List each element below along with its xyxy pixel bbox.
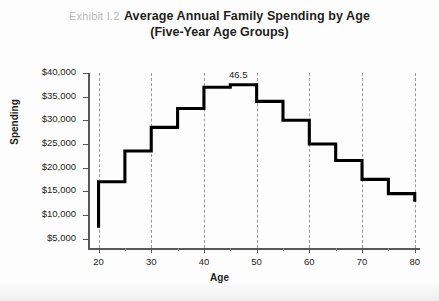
- x-tick-label: 20: [93, 256, 104, 267]
- x-tick: [204, 248, 205, 253]
- exhibit-label: Exhibit I.2: [69, 10, 120, 22]
- y-tick-label: $25,000: [42, 137, 76, 148]
- x-tick: [362, 248, 363, 253]
- y-tick-label: $20,000: [42, 161, 76, 172]
- y-tick-label: $40,000: [42, 66, 76, 77]
- y-tick-label: $5,000: [47, 232, 76, 243]
- x-tick-label: 70: [357, 256, 368, 267]
- y-tick-label: $35,000: [42, 90, 76, 101]
- x-tick: [99, 248, 100, 253]
- x-tick-minor: [178, 248, 179, 251]
- plot-area: $5,000$10,000$15,000$20,000$25,000$30,00…: [88, 73, 420, 248]
- x-tick-label: 60: [304, 256, 315, 267]
- chart-title-block: Exhibit I.2 Average Annual Family Spendi…: [0, 7, 439, 40]
- page-title: Average Annual Family Spending by Age: [124, 9, 370, 23]
- x-tick-label: 80: [409, 256, 420, 267]
- x-tick: [309, 248, 310, 253]
- peak-age-annotation: 46.5: [229, 69, 248, 80]
- x-axis-line: [88, 248, 420, 250]
- spending-step-line: [88, 73, 420, 248]
- spending-step-path: [99, 85, 415, 228]
- x-tick: [151, 248, 152, 253]
- x-axis-title: Age: [0, 272, 439, 283]
- x-tick-minor: [125, 248, 126, 251]
- y-axis-title: Spending: [9, 99, 20, 145]
- x-tick: [415, 248, 416, 253]
- x-tick-label: 40: [199, 256, 210, 267]
- chart-page: Exhibit I.2 Average Annual Family Spendi…: [0, 0, 439, 301]
- y-tick-label: $15,000: [42, 184, 76, 195]
- page-subtitle: (Five-Year Age Groups): [0, 25, 439, 40]
- x-tick-minor: [336, 248, 337, 251]
- y-tick-label: $30,000: [42, 113, 76, 124]
- x-tick-label: 50: [251, 256, 262, 267]
- scan-artifact-band: [0, 283, 439, 301]
- x-tick-minor: [283, 248, 284, 251]
- x-tick-minor: [230, 248, 231, 251]
- x-tick-label: 30: [146, 256, 157, 267]
- x-tick-minor: [388, 248, 389, 251]
- x-tick: [257, 248, 258, 253]
- y-tick-label: $10,000: [42, 208, 76, 219]
